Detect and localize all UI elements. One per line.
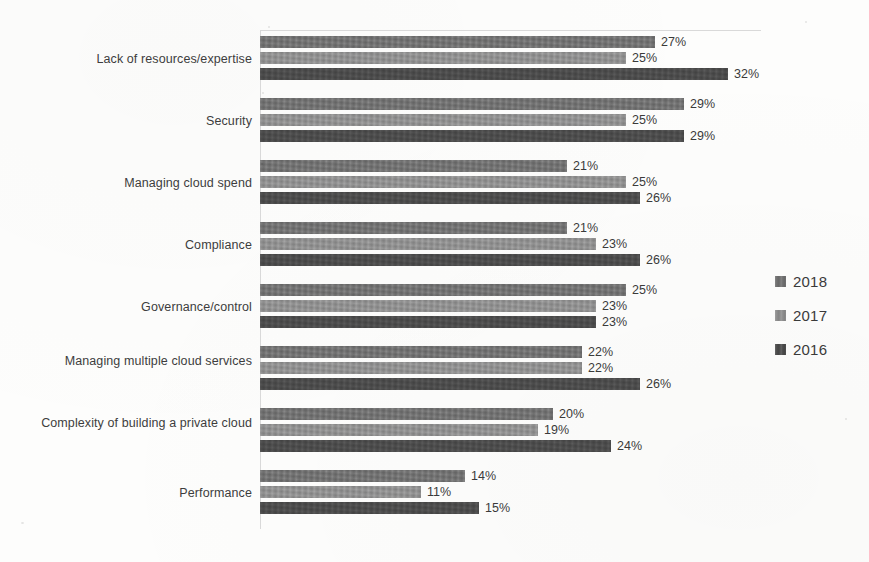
bar-value-label: 22%: [588, 361, 613, 375]
legend-label: 2016: [793, 341, 827, 358]
category-label: Security: [20, 114, 252, 129]
scan-speck: [845, 418, 847, 420]
bar-2018-2[interactable]: [260, 98, 684, 110]
legend-swatch-icon: [775, 344, 786, 355]
bar-2017-4[interactable]: [260, 238, 596, 250]
category-label: Lack of resources/expertise: [20, 52, 252, 67]
category-label: Managing cloud spend: [20, 176, 252, 191]
bar-value-label: 29%: [690, 129, 715, 143]
category-label: Managing multiple cloud services: [20, 354, 252, 369]
chart-group: Managing cloud spend21%25%26%: [0, 159, 869, 207]
bar-2017-6[interactable]: [260, 362, 582, 374]
legend-item-2016[interactable]: 2016: [775, 332, 865, 366]
bar-2018-7[interactable]: [260, 408, 553, 420]
bar-value-label: 11%: [427, 485, 451, 499]
legend-swatch-icon: [775, 310, 786, 321]
category-label: Complexity of building a private cloud: [20, 416, 252, 431]
chart-group: Governance/control25%23%23%: [0, 283, 869, 331]
bar-value-label: 25%: [632, 51, 657, 65]
bar-2016-4[interactable]: [260, 254, 640, 266]
bar-2018-4[interactable]: [260, 222, 567, 234]
bar-value-label: 19%: [544, 423, 569, 437]
bar-2016-6[interactable]: [260, 378, 640, 390]
bar-2018-8[interactable]: [260, 470, 465, 482]
bar-value-label: 23%: [602, 237, 627, 251]
bar-value-label: 27%: [661, 35, 686, 49]
chart-group: Compliance21%23%26%: [0, 221, 869, 269]
bar-2018-5[interactable]: [260, 284, 626, 296]
bar-value-label: 23%: [602, 299, 627, 313]
bar-2016-2[interactable]: [260, 130, 684, 142]
scan-speck: [261, 163, 263, 165]
bar-2018-6[interactable]: [260, 346, 582, 358]
bar-chart: Lack of resources/expertise27%25%32%Secu…: [0, 0, 869, 562]
legend-item-2017[interactable]: 2017: [775, 298, 865, 332]
bar-2016-7[interactable]: [260, 440, 611, 452]
bar-value-label: 21%: [573, 221, 598, 235]
legend-item-2018[interactable]: 2018: [775, 264, 865, 298]
bar-2018-3[interactable]: [260, 160, 567, 172]
bar-2017-7[interactable]: [260, 424, 538, 436]
bar-2016-3[interactable]: [260, 192, 640, 204]
bar-value-label: 25%: [632, 175, 657, 189]
bar-2017-1[interactable]: [260, 52, 626, 64]
legend-label: 2018: [793, 273, 827, 290]
bar-value-label: 23%: [602, 315, 627, 329]
bar-value-label: 25%: [632, 283, 657, 297]
legend-label: 2017: [793, 307, 827, 324]
bar-value-label: 14%: [471, 469, 496, 483]
chart-group: Managing multiple cloud services22%22%26…: [0, 345, 869, 393]
bar-2016-8[interactable]: [260, 502, 479, 514]
bar-2017-2[interactable]: [260, 114, 626, 126]
chart-group: Security29%25%29%: [0, 97, 869, 145]
bar-2017-5[interactable]: [260, 300, 596, 312]
bar-2017-8[interactable]: [260, 486, 421, 498]
bar-value-label: 29%: [690, 97, 715, 111]
scan-speck: [268, 26, 270, 28]
bar-value-label: 22%: [588, 345, 613, 359]
bar-2017-3[interactable]: [260, 176, 626, 188]
chart-group: Lack of resources/expertise27%25%32%: [0, 35, 869, 83]
category-label: Performance: [20, 486, 252, 501]
bar-value-label: 26%: [646, 191, 671, 205]
chart-group: Complexity of building a private cloud20…: [0, 407, 869, 455]
bar-value-label: 25%: [632, 113, 657, 127]
bar-value-label: 24%: [617, 439, 642, 453]
bar-value-label: 26%: [646, 377, 671, 391]
bar-value-label: 32%: [734, 67, 759, 81]
legend-swatch-icon: [775, 276, 786, 287]
chart-group: Performance14%11%15%: [0, 469, 869, 517]
chart-legend: 201820172016: [775, 264, 865, 366]
bar-value-label: 20%: [559, 407, 584, 421]
category-label: Governance/control: [20, 300, 252, 315]
scan-speck: [805, 21, 807, 23]
bar-2016-5[interactable]: [260, 316, 596, 328]
scan-speck: [21, 522, 24, 524]
bar-value-label: 15%: [485, 501, 510, 515]
bar-2016-1[interactable]: [260, 68, 728, 80]
bar-value-label: 26%: [646, 253, 671, 267]
scan-speck: [262, 92, 264, 94]
bar-2018-1[interactable]: [260, 36, 655, 48]
category-label: Compliance: [20, 238, 252, 253]
bar-value-label: 21%: [573, 159, 598, 173]
